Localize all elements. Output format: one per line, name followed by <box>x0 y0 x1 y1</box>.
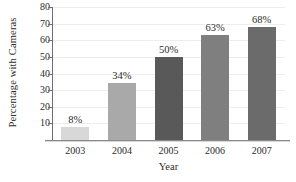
y-axis-line <box>52 7 53 140</box>
x-axis-tick-label: 2003 <box>53 145 97 156</box>
bar-value-label: 50% <box>147 44 191 55</box>
y-axis-tick-label: 10 <box>28 118 50 128</box>
bar <box>61 127 89 140</box>
bar-value-label: 34% <box>100 70 144 81</box>
bar-value-label: 8% <box>53 114 97 125</box>
y-axis-tick-label: 70 <box>28 19 50 29</box>
y-axis-tick-label: 40 <box>28 69 50 79</box>
plot-area: 8%34%50%63%68% <box>52 7 285 140</box>
x-axis-line-shadow <box>45 141 290 142</box>
y-axis-title: Percentage with Cameras <box>0 0 24 145</box>
y-axis-tick-label: 60 <box>28 35 50 45</box>
y-axis-tick-label: 80 <box>28 2 50 12</box>
x-axis-tick-label: 2005 <box>147 145 191 156</box>
gridline <box>52 7 285 8</box>
bar-value-label: 68% <box>240 14 284 25</box>
y-axis-tick-labels: 1020304050607080 <box>24 0 50 145</box>
bar-chart: Percentage with Cameras 1020304050607080… <box>0 0 296 182</box>
bar <box>201 35 229 140</box>
x-axis-line <box>45 140 290 141</box>
x-axis-tick-label: 2007 <box>240 145 284 156</box>
x-axis-tick-label: 2006 <box>193 145 237 156</box>
x-axis-title: Year <box>52 161 285 172</box>
bar <box>108 83 136 140</box>
y-axis-tick-label: 20 <box>28 102 50 112</box>
bar-value-label: 63% <box>193 22 237 33</box>
bar <box>248 27 276 140</box>
y-axis-title-label: Percentage with Cameras <box>7 17 18 127</box>
x-axis-tick-label: 2004 <box>100 145 144 156</box>
bar <box>155 57 183 140</box>
y-axis-tick-label: 50 <box>28 52 50 62</box>
y-axis-tick-label: 30 <box>28 85 50 95</box>
